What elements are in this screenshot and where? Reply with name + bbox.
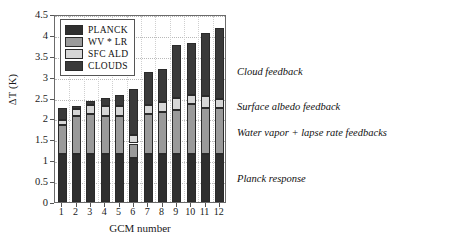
legend-item-wv-lr[interactable]: WV * LR [65,36,128,47]
x-tick-mark [219,203,220,207]
bar-segment-sfc-ald [201,96,210,108]
bar-segment-clouds [144,72,153,105]
legend-swatch-icon [65,49,83,59]
bar-segment-planck [215,154,224,202]
figure-canvas: ΔT (K) 00.511.522.533.544.5 123456789101… [0,0,450,247]
annotation-planck-response: Planck response [237,173,306,184]
bar-segment-planck [86,154,95,202]
x-tick-mark [190,203,191,207]
legend-item-sfc-ald[interactable]: SFC ALD [65,48,128,59]
annotation-water-vapor-lapse-rate-feedbacks: Water vapor + lapse rate feedbacks [237,127,387,138]
bar-segment-wv-lr [58,125,67,154]
y-tick-label: 2 [4,114,48,125]
bar-segment-planck [158,154,167,202]
x-tick-mark [147,203,148,207]
bar-segment-clouds [215,28,224,99]
bar-segment-wv-lr [129,144,138,159]
x-tick-mark [90,203,91,207]
bar-segment-planck [201,154,210,202]
y-tick-label: 0 [4,198,48,209]
bar-segment-sfc-ald [187,95,196,103]
bar-segment-wv-lr [72,116,81,154]
bar-gcm-9 [172,14,181,202]
y-tick-label: 2.5 [4,94,48,105]
bar-segment-planck [101,154,110,202]
annotation-cloud-feedback: Cloud feedback [237,66,303,77]
bar-segment-sfc-ald [58,120,67,125]
bar-segment-sfc-ald [172,98,181,111]
legend-item-clouds[interactable]: CLOUDS [65,60,128,71]
bar-segment-planck [58,154,67,202]
bar-segment-clouds [101,98,110,106]
legend-label: SFC ALD [88,49,128,59]
bar-segment-clouds [172,45,181,97]
bar-gcm-8 [158,14,167,202]
legend-item-planck[interactable]: PLANCK [65,24,128,35]
y-tick-label: 4.5 [4,10,48,21]
bar-segment-planck [172,154,181,202]
x-tick-mark [205,203,206,207]
legend-swatch-icon [65,25,83,35]
bar-gcm-12 [215,14,224,202]
bar-segment-clouds [72,106,81,109]
bar-segment-sfc-ald [144,105,153,114]
bar-segment-planck [144,154,153,202]
bar-segment-planck [72,154,81,202]
bar-segment-wv-lr [215,108,224,154]
bar-segment-clouds [158,69,167,102]
bar-segment-wv-lr [201,108,210,154]
x-tick-mark [104,203,105,207]
bar-segment-clouds [201,33,210,97]
bar-segment-wv-lr [86,114,95,154]
bar-segment-clouds [115,95,124,105]
y-tick-label: 0.5 [4,177,48,188]
y-tick-label: 1 [4,156,48,167]
bar-segment-wv-lr [101,116,110,154]
legend-swatch-icon [65,37,83,47]
y-tick-label: 3 [4,73,48,84]
bar-segment-clouds [58,108,67,120]
bar-segment-planck [187,154,196,202]
y-tick-label: 4 [4,31,48,42]
bar-gcm-11 [201,14,210,202]
bar-segment-sfc-ald [115,106,124,116]
bar-segment-wv-lr [144,114,153,154]
bar-segment-clouds [86,101,95,105]
bar-segment-sfc-ald [158,102,167,112]
bar-segment-planck [115,154,124,202]
x-tick-mark [61,203,62,207]
legend-label: CLOUDS [88,61,128,71]
bar-segment-wv-lr [187,104,196,154]
annotation-surface-albedo-feedback: Surface albedo feedback [237,101,340,112]
bar-segment-planck [129,158,138,202]
bar-segment-sfc-ald [129,135,138,143]
bar-gcm-7 [144,14,153,202]
chart-legend: PLANCKWV * LRSFC ALDCLOUDS [60,19,135,76]
bar-segment-wv-lr [172,110,181,154]
x-tick-mark [162,203,163,207]
legend-swatch-icon [65,61,83,71]
x-tick-mark [133,203,134,207]
bar-segment-sfc-ald [101,106,110,116]
bar-gcm-10 [187,14,196,202]
x-tick-mark [119,203,120,207]
bar-segment-clouds [129,89,138,135]
bar-segment-wv-lr [115,116,124,154]
legend-label: WV * LR [88,37,127,47]
x-tick-mark [176,203,177,207]
x-tick-mark [76,203,77,207]
legend-label: PLANCK [88,25,128,35]
x-axis-label: GCM number [54,222,226,234]
x-tick-label: 12 [207,207,231,217]
y-tick-label: 1.5 [4,135,48,146]
bar-segment-sfc-ald [72,109,81,117]
y-tick-label: 3.5 [4,52,48,63]
bar-segment-sfc-ald [215,99,224,108]
y-tick-mark [50,203,54,204]
bar-segment-wv-lr [158,112,167,154]
bar-segment-sfc-ald [86,105,95,114]
bar-segment-clouds [187,43,196,95]
